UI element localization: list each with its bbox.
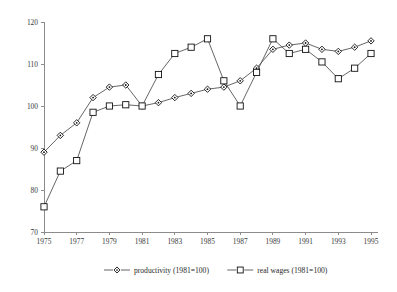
data-point-diamond-center [272, 48, 274, 50]
data-point-square [139, 103, 145, 109]
data-point-diamond-center [92, 97, 94, 99]
data-point-square [237, 103, 243, 109]
data-point-diamond-center [125, 84, 127, 86]
data-point-diamond-center [116, 269, 118, 271]
data-point-square [106, 103, 112, 109]
data-point-square [237, 267, 243, 273]
y-tick-label: 100 [27, 102, 38, 111]
data-point-square [155, 71, 161, 77]
y-tick-label: 80 [31, 186, 39, 195]
data-point-square [123, 102, 129, 108]
data-point-square [368, 50, 374, 56]
data-point-square [204, 36, 210, 42]
data-point-diamond-center [321, 48, 323, 50]
data-point-diamond-center [109, 86, 111, 88]
legend-label: real wages (1981=100) [257, 266, 328, 275]
data-point-square [270, 36, 276, 42]
data-point-diamond-center [223, 86, 225, 88]
data-point-square [253, 69, 259, 75]
x-tick-label: 1985 [200, 237, 215, 246]
data-point-square [172, 50, 178, 56]
data-point-diamond-center [76, 122, 78, 124]
y-tick-label: 120 [27, 18, 38, 27]
data-point-square [41, 204, 47, 210]
data-point-diamond-center [354, 46, 356, 48]
x-tick-label: 1993 [331, 237, 346, 246]
data-point-diamond-center [174, 97, 176, 99]
data-point-square [188, 44, 194, 50]
data-point-square [90, 109, 96, 115]
legend-label: productivity (1981=100) [134, 266, 209, 275]
data-point-diamond-center [207, 88, 209, 90]
data-point-diamond-center [190, 93, 192, 95]
x-tick-label: 1995 [364, 237, 379, 246]
data-point-diamond-center [305, 42, 307, 44]
x-tick-label: 1979 [102, 237, 117, 246]
data-point-diamond-center [158, 102, 160, 104]
x-tick-label: 1991 [298, 237, 313, 246]
data-point-square [319, 59, 325, 65]
data-point-square [352, 65, 358, 71]
x-tick-label: 1981 [135, 237, 150, 246]
data-point-square [221, 78, 227, 84]
data-point-diamond-center [288, 44, 290, 46]
data-point-diamond-center [59, 135, 61, 137]
data-point-diamond-center [43, 151, 45, 153]
data-point-square [74, 158, 80, 164]
x-tick-label: 1983 [167, 237, 182, 246]
x-tick-label: 1987 [233, 237, 248, 246]
y-tick-label: 70 [31, 228, 39, 237]
data-point-square [303, 46, 309, 52]
legend-item[interactable]: real wages (1981=100) [227, 266, 328, 275]
chart-container: 708090100110120 197519771979198119831985… [0, 0, 397, 292]
x-tick-label: 1989 [266, 237, 281, 246]
data-point-diamond-center [239, 80, 241, 82]
y-tick-label: 90 [31, 144, 39, 153]
data-point-diamond-center [370, 40, 372, 42]
data-point-square [286, 50, 292, 56]
data-point-diamond-center [256, 67, 258, 69]
x-tick-label: 1975 [37, 237, 52, 246]
data-point-square [57, 168, 63, 174]
line-chart: 708090100110120 197519771979198119831985… [0, 0, 397, 292]
x-tick-label: 1977 [69, 237, 84, 246]
data-point-square [335, 76, 341, 82]
data-point-diamond-center [337, 51, 339, 53]
y-tick-label: 110 [27, 60, 38, 69]
